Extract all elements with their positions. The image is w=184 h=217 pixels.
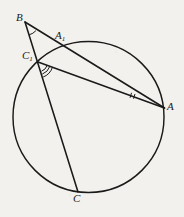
main-circle: [13, 42, 164, 193]
point-label-c1: C1: [22, 50, 33, 63]
segment-b-to-c: [25, 22, 78, 192]
point-label-a1: A1: [55, 30, 65, 43]
point-label-b: B: [16, 12, 23, 23]
angle-mark-b-icon: [29, 31, 36, 35]
angle-mark-c1-arc-1-icon: [42, 65, 48, 71]
point-label-c: C: [73, 193, 80, 204]
point-label-a: A: [167, 101, 174, 112]
point-label-c1-subscript: 1: [29, 55, 33, 63]
geometry-figure: B A1 C1 A C: [0, 0, 184, 217]
geometry-canvas: [0, 0, 184, 217]
point-label-a1-subscript: 1: [62, 35, 66, 43]
